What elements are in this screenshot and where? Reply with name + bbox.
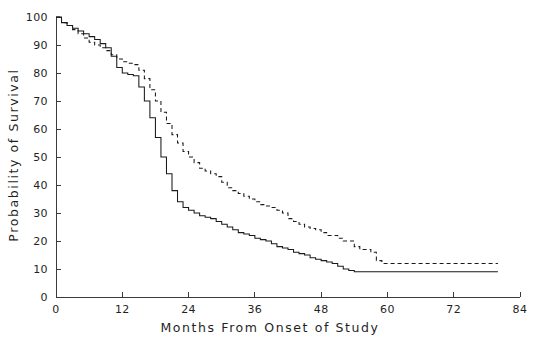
data-curves-group	[56, 17, 498, 272]
x-tick-labels-group: 012243648607284	[52, 303, 527, 316]
x-tick-label: 12	[115, 303, 130, 316]
y-tick-label: 40	[33, 179, 48, 192]
survival-chart-figure: 012243648607284 0102030405060708090100 M…	[0, 0, 540, 339]
y-tick-label: 0	[41, 291, 48, 304]
x-tick-label: 36	[247, 303, 262, 316]
curve-dashed	[56, 17, 498, 263]
x-axis-title: Months From Onset of Study	[160, 320, 379, 335]
y-tick-label: 30	[33, 207, 48, 220]
y-tick-label: 100	[26, 11, 48, 24]
x-tick-label: 24	[181, 303, 196, 316]
tick-marks-group	[56, 17, 520, 297]
y-tick-label: 70	[33, 95, 48, 108]
curve-solid	[56, 17, 498, 272]
x-tick-label: 0	[52, 303, 59, 316]
x-tick-label: 48	[314, 303, 329, 316]
y-tick-label: 20	[33, 235, 48, 248]
y-tick-label: 80	[33, 67, 48, 80]
x-tick-label: 60	[380, 303, 395, 316]
axes-group	[56, 17, 520, 297]
y-tick-label: 50	[33, 151, 48, 164]
x-tick-label: 72	[446, 303, 461, 316]
y-tick-label: 60	[33, 123, 48, 136]
y-axis-title: Probability of Survival	[6, 68, 21, 241]
y-tick-label: 10	[33, 263, 48, 276]
y-tick-label: 90	[33, 39, 48, 52]
survival-plot-canvas: 012243648607284 0102030405060708090100 M…	[0, 0, 540, 339]
y-tick-labels-group: 0102030405060708090100	[26, 11, 48, 304]
x-tick-label: 84	[513, 303, 528, 316]
